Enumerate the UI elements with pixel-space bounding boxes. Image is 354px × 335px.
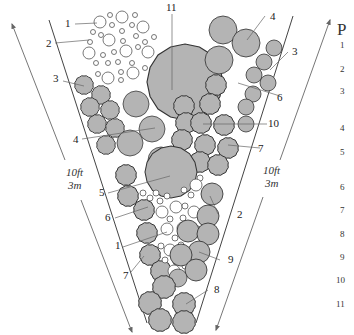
- dimension-right-imperial: 10ft: [263, 164, 281, 176]
- callout-10: 10: [268, 117, 280, 129]
- plant-group-4-top-right: [205, 16, 260, 74]
- plant-group-small-circles-top: [83, 11, 157, 84]
- legend-item-1: 1: [340, 40, 345, 50]
- dimension-label-left: 10ft 3m: [66, 166, 84, 191]
- dimension-right-metric: 3m: [264, 177, 279, 189]
- callout-5: 5: [99, 186, 105, 198]
- callout-7-left: 7: [123, 269, 129, 281]
- planting-plan-diagram: 10ft 3m 10ft 3m: [0, 0, 354, 335]
- legend-item-6: 6: [340, 182, 345, 192]
- callout-8: 8: [214, 283, 220, 295]
- plant-5-center-large: [145, 146, 197, 198]
- callout-6-right: 6: [277, 91, 283, 103]
- legend-item-7: 7: [340, 205, 345, 215]
- legend-title: P: [337, 20, 346, 40]
- callout-3-right: 3: [292, 45, 298, 57]
- legend-item-4: 4: [340, 123, 345, 133]
- plant-group-2-9-right: [169, 183, 223, 287]
- callout-9: 9: [228, 253, 234, 265]
- callout-3-left: 3: [53, 72, 59, 84]
- callout-2-right: 2: [237, 208, 243, 220]
- legend-item-5: 5: [340, 147, 345, 157]
- callout-11: 11: [166, 1, 177, 13]
- legend-item-3: 3: [340, 86, 345, 96]
- plant-group-8-bottom: [139, 276, 196, 334]
- callout-1-lower: 1: [115, 239, 121, 251]
- callout-7-right: 7: [258, 142, 264, 154]
- dimension-label-right: 10ft 3m: [263, 164, 281, 189]
- dimension-left-metric: 3m: [67, 179, 82, 191]
- callout-4-right: 4: [270, 10, 276, 22]
- legend-item-10: 10: [336, 275, 345, 285]
- legend-item-8: 8: [340, 229, 345, 239]
- callout-1-top: 1: [65, 17, 71, 29]
- callout-2-top: 2: [46, 37, 52, 49]
- legend-item-11: 11: [336, 299, 345, 309]
- callout-4-left: 4: [73, 133, 79, 145]
- dimension-left-imperial: 10ft: [66, 166, 84, 178]
- callout-6-left: 6: [105, 211, 111, 223]
- legend-item-9: 9: [340, 252, 345, 262]
- legend-item-2: 2: [340, 64, 345, 74]
